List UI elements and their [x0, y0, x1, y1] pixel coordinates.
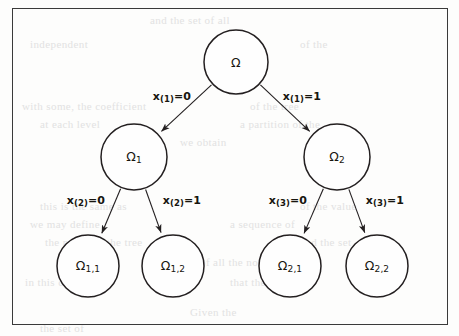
node-label-n11: Ω1,1 — [76, 258, 100, 275]
edge-label-value: =0 — [88, 194, 105, 207]
edge-label-index: (3) — [373, 198, 387, 208]
edge-label-value: =0 — [290, 194, 307, 207]
node-label-subscript: 1 — [136, 155, 142, 165]
node-label-base: Ω — [329, 149, 339, 164]
node-label-base: Ω — [365, 258, 375, 273]
node-label-n21: Ω2,1 — [278, 258, 302, 275]
node-label-subscript: 1,2 — [171, 264, 186, 274]
node-label-subscript: 2,1 — [288, 264, 303, 274]
diagram-page: and the set of allindependentof thewith … — [0, 0, 459, 336]
edge-label-index: (1) — [160, 94, 174, 104]
tree-edge — [349, 189, 365, 232]
edge-label-value: =0 — [174, 90, 191, 103]
node-label-n12: Ω1,2 — [161, 258, 185, 275]
node-label-subscript: 1,1 — [86, 264, 101, 274]
node-layer — [57, 30, 408, 297]
edge-label-e-n2-n21: x(3)=0 — [269, 194, 307, 209]
tree-edge — [146, 189, 161, 232]
node-label-base: Ω — [126, 149, 136, 164]
edge-label-value: =1 — [387, 194, 404, 207]
edge-label-e-n2-n22: x(3)=1 — [366, 194, 404, 209]
edge-label-value: =1 — [184, 194, 201, 207]
edge-label-index: (2) — [74, 198, 88, 208]
edge-label-e-n1-n12: x(2)=1 — [163, 194, 201, 209]
node-label-n2: Ω2 — [329, 149, 345, 166]
node-label-base: Ω — [278, 258, 288, 273]
node-label-subscript: 2 — [339, 155, 345, 165]
edge-label-e-root-n1: x(1)=0 — [153, 90, 191, 105]
edge-label-index: (1) — [290, 94, 304, 104]
node-label-n1: Ω1 — [126, 149, 142, 166]
node-label-subscript: 2,2 — [375, 264, 390, 274]
node-label-base: Ω — [231, 55, 241, 70]
edge-label-index: (2) — [170, 198, 184, 208]
edge-label-e-n1-n11: x(2)=0 — [67, 194, 105, 209]
node-label-n22: Ω2,2 — [365, 258, 389, 275]
tree-canvas — [0, 0, 459, 336]
edge-label-index: (3) — [276, 198, 290, 208]
node-label-root: Ω — [231, 55, 241, 70]
edge-label-value: =1 — [304, 90, 321, 103]
node-label-base: Ω — [161, 258, 171, 273]
edge-label-e-root-n2: x(1)=1 — [283, 90, 321, 105]
node-label-base: Ω — [76, 258, 86, 273]
